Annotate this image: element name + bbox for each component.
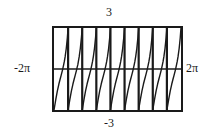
y-max-label: 3 [0, 6, 218, 18]
plot-svg [52, 26, 183, 112]
y-min-label: -3 [0, 117, 218, 129]
plot-area [52, 26, 183, 112]
x-min-label: -2π [14, 62, 30, 74]
tangent-graph-figure: 3 -2π 2π -3 [0, 0, 218, 136]
x-max-label: 2π [186, 62, 198, 74]
